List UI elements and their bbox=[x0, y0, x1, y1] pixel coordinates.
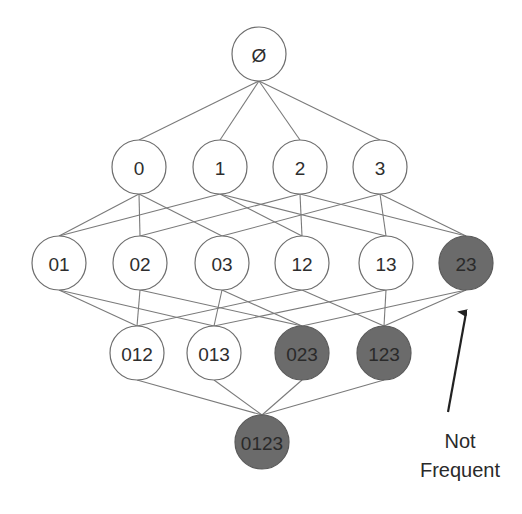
edge-empty-1 bbox=[220, 81, 259, 140]
annotation-label-line1: Not bbox=[444, 430, 476, 452]
node-label: Ø bbox=[252, 45, 267, 66]
itemset-lattice-diagram: Ø01230102031213230120130231230123 Not Fr… bbox=[0, 0, 522, 514]
node-label: 0 bbox=[134, 158, 145, 179]
node-label: 012 bbox=[121, 344, 153, 365]
edge-0-01 bbox=[59, 194, 139, 236]
edge-empty-3 bbox=[259, 81, 380, 140]
node-label: 03 bbox=[211, 254, 232, 275]
edge-013-0123 bbox=[214, 380, 262, 415]
node-0123: 0123 bbox=[235, 415, 289, 469]
arrow-icon bbox=[448, 313, 466, 412]
lattice-nodes: Ø01230102031213230120130231230123 bbox=[32, 27, 493, 469]
node-label: 013 bbox=[198, 344, 230, 365]
node-label: 23 bbox=[455, 254, 476, 275]
node-2: 2 bbox=[273, 140, 327, 194]
edge-empty-0 bbox=[139, 81, 259, 140]
node-label: 1 bbox=[215, 158, 226, 179]
edge-23-123 bbox=[384, 290, 466, 326]
node-label: 12 bbox=[291, 254, 312, 275]
edge-1-12 bbox=[220, 194, 302, 236]
edge-13-013 bbox=[214, 290, 386, 326]
node-label: 2 bbox=[295, 158, 306, 179]
node-123: 123 bbox=[357, 326, 411, 380]
edge-3-23 bbox=[380, 194, 466, 236]
node-012: 012 bbox=[110, 326, 164, 380]
node-label: 123 bbox=[368, 344, 400, 365]
edge-03-023 bbox=[222, 290, 302, 326]
node-02: 02 bbox=[113, 236, 167, 290]
node-label: 01 bbox=[48, 254, 69, 275]
edge-12-123 bbox=[302, 290, 384, 326]
annotation-label-line2: Frequent bbox=[420, 459, 500, 481]
node-023: 023 bbox=[275, 326, 329, 380]
edge-2-02 bbox=[140, 194, 300, 236]
node-label: 023 bbox=[286, 344, 318, 365]
node-label: 02 bbox=[129, 254, 150, 275]
node-label: 3 bbox=[375, 158, 386, 179]
node-3: 3 bbox=[353, 140, 407, 194]
edge-empty-2 bbox=[259, 81, 300, 140]
node-23: 23 bbox=[439, 236, 493, 290]
node-12: 12 bbox=[275, 236, 329, 290]
node-13: 13 bbox=[359, 236, 413, 290]
node-013: 013 bbox=[187, 326, 241, 380]
edge-123-0123 bbox=[262, 380, 384, 415]
edge-01-012 bbox=[59, 290, 137, 326]
node-03: 03 bbox=[195, 236, 249, 290]
node-label: 13 bbox=[375, 254, 396, 275]
node-label: 0123 bbox=[241, 433, 283, 454]
edge-01-013 bbox=[59, 290, 214, 326]
edge-012-0123 bbox=[137, 380, 262, 415]
node-1: 1 bbox=[193, 140, 247, 194]
node-0: 0 bbox=[112, 140, 166, 194]
not-frequent-annotation: Not Frequent bbox=[420, 313, 500, 481]
node-01: 01 bbox=[32, 236, 86, 290]
edge-0-03 bbox=[139, 194, 222, 236]
node-empty: Ø bbox=[232, 27, 286, 81]
